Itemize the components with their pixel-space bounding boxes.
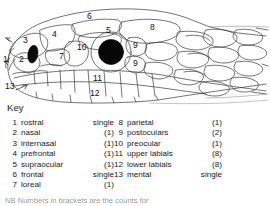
diagram-label-6: 6 (87, 12, 92, 21)
key-number: 2 (4, 128, 17, 138)
key-number: 12 (110, 160, 123, 170)
key-number: 7 (4, 180, 17, 190)
diagram-label-2: 2 (19, 55, 24, 64)
upper-labial-row-line (14, 70, 266, 91)
key-name: rostral (21, 118, 44, 128)
scale-temporal-1 (145, 42, 177, 60)
key-row: 4 prefrontal (1) (4, 149, 116, 159)
nostril (28, 45, 38, 63)
lower-labial-div-5 (112, 97, 114, 103)
scale-temporal-3 (176, 31, 213, 50)
diagram-label-11: 11 (93, 74, 102, 83)
footnote: NB Numbers in brackets are the counts fo… (5, 196, 149, 205)
key-row: 1 rostral single (4, 118, 116, 128)
key-value: (1) (66, 149, 114, 159)
key-number: 8 (110, 118, 123, 128)
diagram-label-5: 5 (106, 26, 111, 35)
labial-div-9 (152, 74, 155, 96)
diagram-label-3: 3 (23, 36, 28, 45)
key-name: lower labials (127, 160, 172, 170)
scale-frontal (72, 19, 122, 37)
scale-temporal-4 (177, 51, 209, 68)
key-name: nasal (21, 128, 40, 138)
body-edge-3 (184, 71, 206, 76)
labial-div-6 (104, 71, 106, 96)
key-row: 2 nasal (1) (4, 128, 116, 138)
body-scale-r2a (208, 47, 239, 63)
key-column-right: 8 parietal (1) 9 postoculars (2) 10 preo… (110, 118, 268, 180)
key-number: 11 (110, 149, 123, 159)
lower-labial-div-3 (70, 95, 71, 102)
scale-loreal (45, 49, 70, 66)
key-name: frontal (21, 170, 44, 180)
key-number: 5 (4, 160, 17, 170)
neck-line-top (210, 26, 268, 27)
diagram-label-8: 8 (150, 23, 155, 32)
key-name: mental (127, 170, 151, 180)
key-name: supraocular (21, 160, 63, 170)
key-value: (1) (66, 128, 114, 138)
key-number: 1 (4, 118, 17, 128)
key-number: 9 (110, 128, 123, 138)
diagram-label-7: 7 (59, 52, 64, 61)
key-value: (1) (180, 139, 222, 149)
scale-temporal-2 (144, 62, 173, 79)
key-row: 7 loreal (1) (4, 180, 116, 190)
lower-labial-div-6 (134, 97, 136, 102)
rostral-edge-3 (13, 72, 29, 74)
key-row: 6 frontal single (4, 170, 116, 180)
key-number: 4 (4, 149, 17, 159)
key-number: 3 (4, 139, 17, 149)
key-value: (8) (180, 149, 222, 159)
key-value: (1) (66, 180, 114, 190)
body-scale-r2b (238, 45, 267, 60)
key-row: 9 postoculars (2) (110, 128, 268, 138)
key-name: internasal (21, 139, 56, 149)
key-name: prefrontal (21, 149, 55, 159)
eye-pupil (99, 40, 124, 65)
key-row: 10 preocular (1) (110, 139, 268, 149)
diagram-label-9-lower: 9 (133, 59, 138, 68)
lower-labial-div-2 (52, 94, 53, 100)
key-value: single (66, 118, 114, 128)
key-row: 8 parietal (1) (110, 118, 268, 128)
body-edge-5 (262, 64, 268, 66)
key-number: 13 (110, 170, 123, 180)
key-value: (2) (180, 128, 222, 138)
key-column-left: 1 rostral single 2 nasal (1) 3 internasa… (4, 118, 116, 191)
diagram-label-9-upper: 9 (133, 41, 138, 50)
key-row: 11 upper labials (8) (110, 149, 268, 159)
diagram-label-1: 1 (3, 55, 8, 64)
snake-scalation-figure: 1 2 3 4 5 6 7 8 9 9 10 11 12 13 Key 1 ro… (0, 0, 270, 206)
diagram-label-12: 12 (90, 89, 100, 98)
body-scale-r3a (204, 65, 235, 81)
diagram-label-13: 13 (5, 82, 15, 91)
scale-prefrontal (40, 25, 75, 51)
key-row: 5 supraocular (1) (4, 160, 116, 170)
body-edge-4 (256, 28, 268, 30)
key-row: 3 internasal (1) (4, 139, 116, 149)
body-scale-r4b (230, 77, 258, 92)
key-value: single (66, 170, 114, 180)
key-name: preocular (127, 139, 161, 149)
labial-div-2 (47, 71, 48, 86)
key-row: 12 lower labials (8) (110, 160, 268, 170)
key-row: 13 mental single (110, 170, 268, 180)
throat-line (150, 100, 268, 104)
labial-div-4 (74, 70, 75, 92)
lower-labial-row-line (14, 82, 206, 94)
key-value: (1) (180, 118, 222, 128)
lower-labial-div-7 (156, 96, 158, 100)
key-name: upper labials (127, 149, 173, 159)
key-heading: Key (7, 102, 24, 113)
key-value: (8) (180, 160, 222, 170)
labial-div-7 (120, 72, 122, 97)
key-name: loreal (21, 180, 41, 190)
body-edge-6 (252, 92, 266, 94)
key-value: (1) (66, 139, 114, 149)
diagram-label-4: 4 (52, 30, 57, 39)
key-number: 10 (110, 139, 123, 149)
body-edge-2 (188, 53, 210, 58)
head-top-outline (8, 9, 266, 62)
lower-labial-div-1 (36, 92, 37, 98)
